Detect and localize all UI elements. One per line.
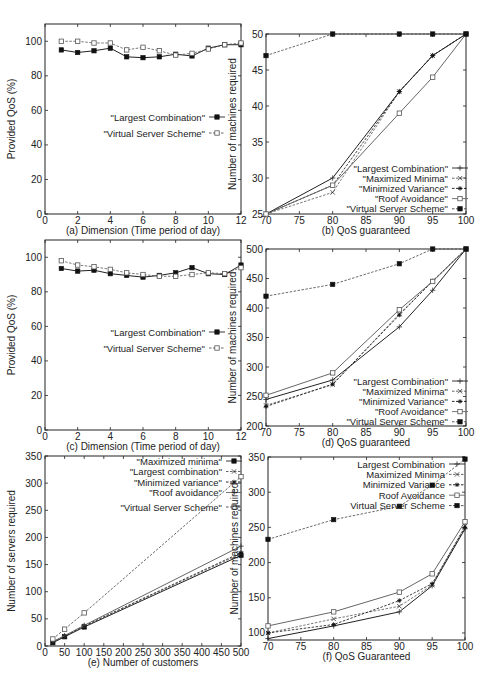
data-point: [190, 265, 194, 269]
data-point: [430, 581, 434, 585]
y-tick-label: 250: [25, 505, 42, 516]
data-point: [397, 598, 401, 602]
series-line: [61, 265, 241, 277]
y-tick-label: 450: [246, 273, 263, 284]
legend-marker: [215, 346, 219, 350]
x-tick-label: 50: [59, 647, 71, 658]
y-tick-label: 60: [31, 105, 43, 116]
data-point: [59, 39, 63, 43]
data-point: [75, 269, 79, 273]
legend-entry: "Maximized minima": [137, 456, 242, 467]
series-2: [59, 259, 243, 279]
data-point: [430, 32, 434, 36]
data-point: [264, 404, 268, 408]
data-point: [430, 572, 434, 576]
data-point: [397, 262, 401, 266]
legend-label: Roof Avoidance: [379, 490, 445, 501]
x-tick-label: 100: [457, 641, 474, 652]
legend-entry: "Largest combination": [130, 466, 242, 477]
y-tick-label: 100: [25, 36, 42, 47]
legend-label: Virtual Server Scheme: [350, 500, 445, 511]
x-tick-label: 95: [427, 427, 439, 438]
x-tick-label: 12: [235, 431, 247, 442]
data-point: [463, 525, 467, 529]
series-5: [264, 247, 468, 299]
data-point: [206, 271, 210, 275]
x-tick-label: 70: [262, 641, 274, 652]
data-point: [92, 265, 96, 269]
x-axis-label: (f) QoS Guaranteed: [323, 651, 411, 662]
data-point: [430, 75, 434, 79]
series-1: [51, 553, 244, 645]
legend-entry: Largest Combination: [357, 459, 465, 470]
data-point: [430, 279, 434, 283]
y-axis-label: Provided QoS (%): [6, 295, 17, 376]
series-line: [53, 555, 241, 642]
x-tick-label: 500: [233, 647, 250, 658]
y-tick-label: 60: [31, 321, 43, 332]
y-tick-label: 80: [31, 286, 43, 297]
legend-marker: [458, 196, 462, 200]
series-line: [53, 546, 241, 642]
y-axis-label: Number of servers required: [6, 490, 17, 612]
x-tick-label: 75: [295, 641, 307, 652]
data-point: [430, 483, 434, 487]
series-line: [266, 249, 466, 395]
y-axis-label: Number of machines required: [227, 58, 238, 190]
y-tick-label: 20: [31, 390, 43, 401]
chart-e: 0501001502002503003504004505000501001502…: [6, 451, 250, 669]
series-line: [268, 529, 465, 639]
y-tick-label: 100: [25, 586, 42, 597]
chart-d: 707580859095100200250300350400450500(d) …: [227, 244, 475, 449]
series-1: [59, 263, 243, 279]
data-point: [397, 32, 401, 36]
x-tick-label: 450: [213, 647, 230, 658]
data-point: [141, 55, 145, 59]
legend-marker: [215, 131, 219, 135]
y-tick-label: 40: [31, 139, 43, 150]
data-point: [108, 271, 112, 275]
y-tick-label: 25: [252, 209, 264, 220]
data-point: [190, 272, 194, 276]
legend-label: "Minimized variance": [134, 477, 222, 488]
y-tick-label: 35: [252, 137, 264, 148]
chart-b: 707580859095100253035404550(b) QoS guara…: [227, 29, 475, 237]
data-point: [331, 610, 335, 614]
data-point: [157, 55, 161, 59]
legend-marker: [455, 493, 459, 497]
data-point: [397, 590, 401, 594]
data-point: [51, 637, 55, 641]
y-tick-label: 80: [31, 70, 43, 81]
x-tick-label: 0: [42, 431, 48, 442]
y-tick-label: 0: [36, 209, 42, 220]
data-point: [108, 46, 112, 50]
y-tick-label: 150: [248, 592, 265, 603]
series-line: [61, 41, 241, 55]
x-tick-label: 0: [42, 647, 48, 658]
data-point: [92, 41, 96, 45]
y-tick-label: 350: [25, 451, 42, 462]
legend-label: "Virtual Server Scheme": [103, 343, 205, 354]
chart-c: 024681012020406080100(c) Dimension (Time…: [6, 240, 247, 452]
y-tick-label: 400: [246, 303, 263, 314]
data-point: [264, 393, 268, 397]
legend-label: "Virtual Server Scheme": [346, 203, 448, 214]
legend-marker: [455, 483, 459, 487]
data-point: [157, 49, 161, 53]
data-point: [157, 274, 161, 278]
legend-marker: [458, 399, 462, 403]
legend-marker: [457, 165, 462, 170]
legend-label: Largest Combination: [357, 459, 445, 470]
data-point: [330, 183, 334, 187]
data-point: [397, 308, 401, 312]
legend-marker: [455, 503, 459, 507]
x-tick-label: 0: [42, 215, 48, 226]
y-tick-label: 300: [248, 487, 265, 498]
data-point: [222, 43, 226, 47]
data-point: [173, 53, 177, 57]
y-axis-label: Number of machines required: [229, 483, 240, 615]
y-tick-label: 350: [248, 452, 265, 463]
data-point: [264, 212, 268, 216]
legend-marker: [458, 186, 462, 190]
series-4: [266, 520, 467, 629]
